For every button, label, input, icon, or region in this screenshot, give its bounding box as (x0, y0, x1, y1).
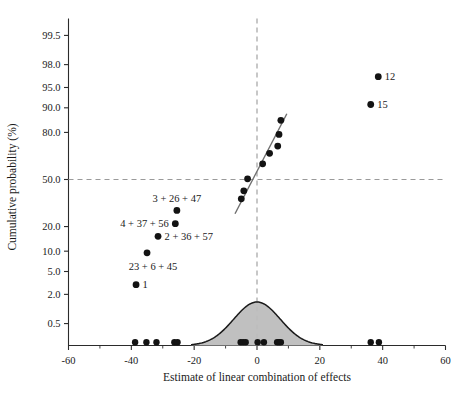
data-point (259, 160, 266, 167)
y-axis-tick-labels: 99.598.095.090.080.050.020.010.05.02.00.… (42, 30, 60, 329)
y-tick-label: 95.0 (42, 82, 60, 93)
rug-point (261, 339, 267, 345)
x-tick-label: -20 (187, 355, 201, 366)
data-point (367, 101, 374, 108)
y-tick-label: 99.5 (42, 30, 60, 41)
x-tick-label: 40 (377, 355, 388, 366)
rug-point (254, 339, 260, 345)
rug-point (143, 339, 149, 345)
data-point (266, 150, 273, 157)
y-tick-label: 10.0 (42, 246, 60, 257)
x-tick-label: 0 (254, 355, 259, 366)
data-point (155, 233, 162, 240)
data-point (238, 195, 245, 202)
normal-probability-plot: 99.598.095.090.080.050.020.010.05.02.00.… (0, 0, 465, 393)
rug-point (278, 339, 284, 345)
y-tick-label: 80.0 (42, 127, 60, 138)
x-tick-label: -60 (62, 355, 76, 366)
rug-point (368, 339, 374, 345)
data-point (173, 207, 180, 214)
chart-canvas: 99.598.095.090.080.050.020.010.05.02.00.… (0, 0, 465, 393)
data-point (144, 249, 151, 256)
y-tick-label: 98.0 (42, 59, 60, 70)
y-tick-label: 5.0 (47, 266, 60, 277)
x-tick-label: -40 (124, 355, 138, 366)
x-tick-label: 60 (440, 355, 451, 366)
x-axis-title: Estimate of linear combination of effect… (163, 371, 351, 383)
data-point (375, 73, 382, 80)
point-annotation: 1 (143, 279, 148, 290)
x-axis-tick-labels: -60-40-200204060 (62, 355, 451, 366)
data-point (133, 281, 140, 288)
point-annotation: 4 + 37 + 56 (120, 218, 169, 229)
data-point (274, 143, 281, 150)
point-annotation: 23 + 6 + 45 (129, 261, 178, 272)
rug-point (153, 339, 159, 345)
point-annotation: 15 (377, 99, 388, 110)
y-axis-title: Cumulative probability (%) (6, 123, 19, 250)
data-point (276, 131, 283, 138)
data-point (172, 220, 179, 227)
point-annotation: 2 + 36 + 57 (165, 231, 214, 242)
y-tick-label: 50.0 (42, 174, 60, 185)
data-point (277, 117, 284, 124)
rug-point (242, 339, 248, 345)
rug-plot (132, 339, 382, 345)
data-point (244, 175, 251, 182)
density-curve (191, 302, 323, 346)
y-tick-label: 0.5 (47, 318, 60, 329)
point-annotation: 3 + 26 + 47 (153, 193, 202, 204)
data-point (240, 187, 247, 194)
rug-point (132, 339, 138, 345)
y-tick-label: 20.0 (42, 221, 60, 232)
x-tick-label: 20 (315, 355, 326, 366)
plot-frame (64, 19, 446, 351)
point-annotations: 123 + 6 + 452 + 36 + 574 + 37 + 563 + 26… (120, 71, 395, 290)
y-tick-label: 2.0 (47, 289, 60, 300)
rug-point (376, 339, 382, 345)
rug-point (174, 339, 180, 345)
point-annotation: 12 (385, 71, 396, 82)
y-tick-label: 90.0 (42, 102, 60, 113)
reference-lines (69, 19, 446, 346)
